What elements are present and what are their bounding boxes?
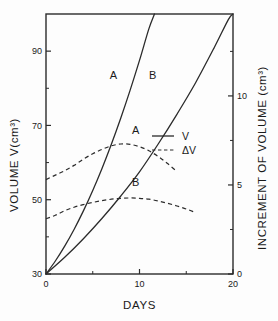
plot-frame bbox=[46, 14, 233, 274]
y2-tick-label: 5 bbox=[237, 180, 242, 190]
y2-axis-title: INCREMENT OF VOLUME (cm³) bbox=[256, 66, 268, 250]
legend-label-0: V bbox=[182, 130, 189, 142]
y-axis-title: VOLUME V(cm³) bbox=[8, 118, 20, 212]
legend-label-1: ΔV bbox=[182, 144, 196, 156]
y-tick-label: 30 bbox=[32, 269, 42, 279]
x-tick-label: 0 bbox=[43, 279, 48, 289]
volume-increment-chart: 30507090051001020ABABVΔVVOLUME V(cm³)INC… bbox=[0, 0, 278, 321]
series-curve-solid-b bbox=[46, 14, 233, 274]
x-tick-label: 20 bbox=[228, 279, 238, 289]
y2-tick-label: 0 bbox=[237, 269, 242, 279]
curve-label-solid-b: B bbox=[149, 69, 156, 81]
series-curve-dashed-a bbox=[46, 144, 177, 180]
y-tick-label: 50 bbox=[32, 195, 42, 205]
x-axis-title: DAYS bbox=[123, 299, 156, 311]
y-tick-label: 70 bbox=[32, 121, 42, 131]
curve-label-dashed-a: A bbox=[132, 124, 140, 136]
figure-container: 30507090051001020ABABVΔVVOLUME V(cm³)INC… bbox=[0, 0, 278, 321]
curve-label-dashed-b: B bbox=[132, 176, 139, 188]
y2-tick-label: 10 bbox=[237, 91, 247, 101]
series-curve-dashed-b bbox=[46, 198, 196, 219]
x-tick-label: 10 bbox=[134, 279, 144, 289]
curve-label-solid-a: A bbox=[110, 69, 118, 81]
series-curve-solid-a bbox=[46, 14, 154, 274]
y-tick-label: 90 bbox=[32, 46, 42, 56]
